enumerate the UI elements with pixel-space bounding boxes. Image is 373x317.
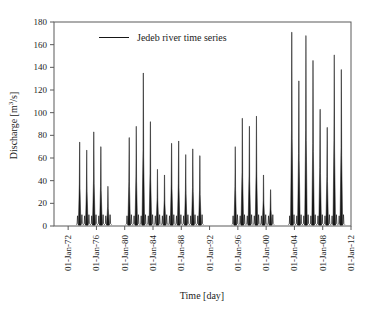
legend-label: Jedeb river time series xyxy=(137,32,227,43)
x-axis-title: Time [day] xyxy=(142,290,262,301)
yearly-flood-spike xyxy=(262,175,265,225)
y-axis-title: Discharge [m3/s] xyxy=(7,46,22,206)
yearly-flood-spike xyxy=(340,70,343,225)
yearly-flood-spike xyxy=(291,32,294,225)
x-tick-label: 01-Jan-04 xyxy=(289,235,299,271)
yearly-flood-spike xyxy=(326,127,329,224)
y-tick-label: 160 xyxy=(34,40,48,50)
yearly-flood-spike xyxy=(93,132,96,225)
yearly-flood-spike xyxy=(269,190,272,225)
legend-line-sample xyxy=(99,37,129,38)
x-tick-label: 01-Jan-08 xyxy=(318,235,328,271)
yearly-flood-spike xyxy=(185,155,188,225)
legend: Jedeb river time series xyxy=(99,30,227,44)
series-baseline xyxy=(232,215,274,225)
y-axis-title-unit: /s] xyxy=(8,92,19,102)
series-baseline xyxy=(288,215,345,225)
yearly-flood-spike xyxy=(241,118,244,225)
yearly-flood-spike xyxy=(149,122,152,225)
yearly-flood-spike xyxy=(333,55,336,225)
y-tick-label: 80 xyxy=(38,130,48,140)
yearly-flood-spike xyxy=(142,73,145,225)
y-tick-label: 60 xyxy=(38,153,48,163)
y-axis-title-sup: 3 xyxy=(7,102,15,106)
x-tick-label: 01-Jan-76 xyxy=(91,235,101,271)
x-tick-label: 01-Jan-12 xyxy=(346,235,356,271)
yearly-flood-spike xyxy=(255,116,258,225)
yearly-flood-spike xyxy=(177,141,180,225)
yearly-flood-spike xyxy=(156,169,159,225)
y-tick-label: 20 xyxy=(38,198,48,208)
x-tick-label: 01-Jan-92 xyxy=(205,235,215,271)
yearly-flood-spike xyxy=(192,149,195,225)
y-tick-label: 180 xyxy=(34,17,48,27)
y-tick-label: 120 xyxy=(34,85,48,95)
y-tick-label: 40 xyxy=(38,176,48,186)
yearly-flood-spike xyxy=(78,142,81,225)
plot-canvas: 02040608010012014016018001-Jan-7201-Jan-… xyxy=(0,0,373,317)
yearly-flood-spike xyxy=(86,150,89,225)
yearly-flood-spike xyxy=(319,109,322,225)
y-axis-title-text: Discharge [m xyxy=(8,105,19,159)
x-tick-label: 01-Jan-96 xyxy=(233,235,243,271)
yearly-flood-spike xyxy=(100,147,103,225)
x-tick-label: 01-Jan-72 xyxy=(63,235,73,271)
y-tick-label: 0 xyxy=(43,221,48,231)
yearly-flood-spike xyxy=(107,186,110,225)
yearly-flood-spike xyxy=(305,36,308,225)
x-tick-label: 01-Jan-84 xyxy=(148,235,158,271)
x-tick-label: 01-Jan-80 xyxy=(120,235,130,271)
yearly-flood-spike xyxy=(312,61,315,225)
x-tick-label: 01-Jan-00 xyxy=(261,235,271,271)
yearly-flood-spike xyxy=(170,143,173,225)
yearly-flood-spike xyxy=(135,126,138,225)
yearly-flood-spike xyxy=(163,175,166,225)
discharge-time-series-figure: 02040608010012014016018001-Jan-7201-Jan-… xyxy=(0,0,373,317)
yearly-flood-spike xyxy=(199,156,202,225)
yearly-flood-spike xyxy=(298,81,301,225)
y-tick-label: 100 xyxy=(34,108,48,118)
yearly-flood-spike xyxy=(248,126,251,225)
yearly-flood-spike xyxy=(128,138,130,225)
y-tick-label: 140 xyxy=(34,62,48,72)
x-tick-label: 01-Jan-88 xyxy=(176,235,186,271)
yearly-flood-spike xyxy=(234,147,237,225)
